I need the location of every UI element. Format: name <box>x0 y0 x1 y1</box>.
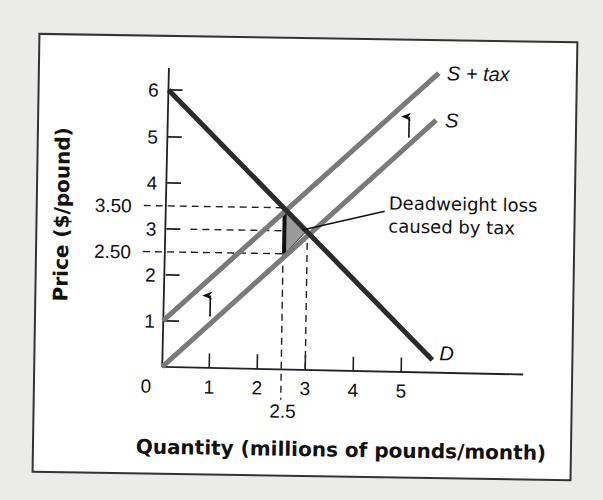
y-tick-2: 2 <box>145 265 156 286</box>
chart-canvas: 6 5 4 3 2 1 3.50 2.50 0 1 2 3 4 5 2.5 Qu… <box>0 0 603 500</box>
y-tick-6: 6 <box>148 80 159 101</box>
x-tick-2.5: 2.5 <box>269 401 296 422</box>
demand-label: D <box>439 342 454 364</box>
supply-label: S <box>445 109 459 131</box>
y-tick-1: 1 <box>144 311 155 332</box>
supply-tax-label: S + tax <box>447 62 511 85</box>
figure: 6 5 4 3 2 1 3.50 2.50 0 1 2 3 4 5 2.5 Qu… <box>33 34 578 480</box>
x-tick-0: 0 <box>140 376 151 397</box>
x-tick-5: 5 <box>395 381 406 402</box>
y-axis-title: Price ($/pound) <box>48 127 75 301</box>
deadweight-annotation-line1: Deadweight loss <box>389 192 538 215</box>
y-tick-3: 3 <box>146 219 157 240</box>
x-tick-3: 3 <box>299 378 310 399</box>
x-tick-2: 2 <box>251 377 262 398</box>
x-tick-1: 1 <box>203 377 214 398</box>
x-tick-4: 4 <box>347 380 358 401</box>
y-tick-2.50: 2.50 <box>94 241 131 263</box>
deadweight-annotation-line2: caused by tax <box>388 215 515 238</box>
y-tick-4: 4 <box>146 173 157 194</box>
y-tick-5: 5 <box>147 127 158 148</box>
y-tick-3.50: 3.50 <box>95 195 132 217</box>
